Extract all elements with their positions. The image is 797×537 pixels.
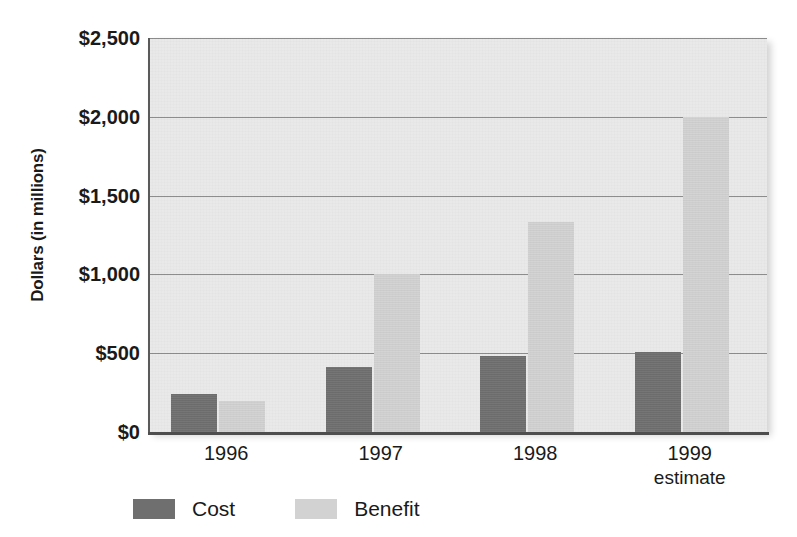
x-tick-sublabel: estimate (613, 466, 768, 490)
legend-swatch-cost (133, 499, 175, 519)
x-axis-tick-labels: 1996199719981999estimate (149, 441, 767, 501)
bar-cost-1997 (326, 367, 372, 432)
legend-item-benefit: Benefit (295, 497, 419, 521)
bar-benefit-1999 (683, 117, 729, 432)
bar-cost-1999 (635, 352, 681, 432)
y-axis-tick-label: $1,000 (32, 264, 140, 284)
y-axis-tick-label: $1,500 (32, 186, 140, 206)
plot-area (149, 38, 767, 432)
gridline (149, 38, 767, 39)
bar-cost-1996 (171, 394, 217, 432)
y-axis-tick-labels: $2,500$2,000$1,500$1,000$500$0 (32, 0, 140, 537)
y-axis-tick-label: $2,000 (32, 107, 140, 127)
x-tick-year: 1998 (513, 442, 558, 464)
x-axis-line (148, 432, 769, 435)
chart-legend: CostBenefit (133, 496, 420, 522)
y-axis-tick-label: $0 (32, 422, 140, 442)
x-axis-tick-label: 1997 (304, 441, 459, 466)
x-axis-tick-label: 1998 (458, 441, 613, 466)
y-axis-tick-label: $2,500 (32, 28, 140, 48)
gridline (149, 274, 767, 275)
bar-benefit-1996 (219, 401, 265, 432)
bar-benefit-1997 (374, 274, 420, 432)
y-axis-line (148, 38, 150, 434)
gridline (149, 196, 767, 197)
bar-chart-figure: Dollars (in millions) $2,500$2,000$1,500… (0, 0, 797, 537)
legend-label-benefit: Benefit (354, 497, 419, 521)
y-axis-tick-label: $500 (32, 343, 140, 363)
x-tick-year: 1997 (359, 442, 404, 464)
legend-item-cost: Cost (133, 497, 235, 521)
x-tick-year: 1999 (668, 442, 713, 464)
gridline (149, 117, 767, 118)
x-axis-tick-label: 1996 (149, 441, 304, 466)
legend-swatch-benefit (295, 499, 337, 519)
x-axis-tick-label: 1999estimate (613, 441, 768, 490)
x-tick-year: 1996 (204, 442, 249, 464)
bar-benefit-1998 (528, 222, 574, 432)
bar-cost-1998 (480, 356, 526, 432)
legend-label-cost: Cost (192, 497, 235, 521)
